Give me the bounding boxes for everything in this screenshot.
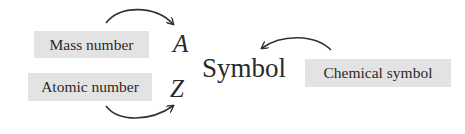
arrow-chemical-to-symbol — [262, 38, 331, 50]
arrow-atomic-to-z — [106, 106, 173, 118]
mass-number-symbol: A — [173, 31, 188, 56]
mass-number-text: Mass number — [50, 37, 134, 53]
atomic-number-text: Atomic number — [41, 79, 139, 95]
chemical-symbol-label: Chemical symbol — [305, 59, 451, 87]
atomic-number-label: Atomic number — [28, 73, 152, 101]
mass-number-label: Mass number — [34, 31, 149, 58]
arrow-mass-to-a — [106, 10, 173, 24]
element-symbol: Symbol — [202, 55, 286, 82]
chemical-symbol-text: Chemical symbol — [324, 65, 433, 81]
atomic-number-symbol: Z — [170, 76, 184, 101]
